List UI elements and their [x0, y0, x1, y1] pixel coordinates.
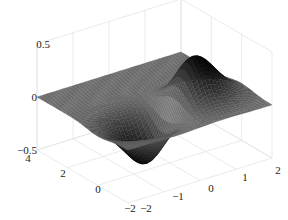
y-tick-label: −2 [124, 202, 136, 214]
x-tick-label: −1 [172, 190, 184, 202]
x-tick-label: 0 [208, 182, 214, 194]
grid-line [98, 140, 242, 185]
y-tick-label: 0 [95, 183, 101, 195]
x-tick-label: 2 [275, 164, 281, 176]
y-axis-tick-labels: 4 2 0 −2 [25, 152, 136, 214]
z-tick-label: 0.5 [36, 38, 50, 50]
grid-line [181, 0, 272, 52]
surface-plot-canvas: 0.5 0 −0.5 4 2 0 −2 −2 −1 0 1 2 [0, 0, 288, 220]
z-tick-label: 0 [32, 91, 38, 103]
grid-line [128, 158, 272, 203]
grid-line [37, 150, 128, 203]
x-tick-label: −2 [140, 202, 152, 214]
y-tick-label: 2 [60, 167, 66, 179]
surface-plot-figure: 0.5 0 −0.5 4 2 0 −2 −2 −1 0 1 2 [0, 0, 288, 220]
x-tick-label: 1 [242, 171, 248, 183]
y-tick-label: 4 [25, 152, 31, 164]
surface-mesh [37, 52, 272, 164]
x-axis-tick-labels: −2 −1 0 1 2 [140, 164, 281, 214]
